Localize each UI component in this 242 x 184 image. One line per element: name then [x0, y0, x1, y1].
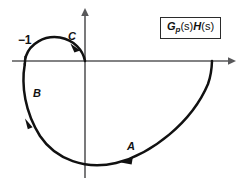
curve-label-a: A — [127, 141, 135, 152]
transfer-function-box: Gp(s)H(s) — [160, 17, 221, 39]
nyquist-plot-figure: −1 A B C Gp(s)H(s) — [0, 0, 242, 184]
real-axis — [12, 57, 236, 65]
transfer-function-base: G — [167, 20, 176, 32]
transfer-function-argument-2: (s) — [201, 20, 214, 32]
critical-point-label: −1 — [18, 34, 31, 46]
imaginary-axis — [81, 8, 89, 178]
imaginary-axis-arrowhead — [81, 8, 89, 16]
curve-label-c: C — [68, 31, 76, 42]
nyquist-main-contour — [23, 61, 212, 165]
transfer-function-argument-1: (s) — [180, 20, 193, 32]
real-axis-arrowhead — [228, 57, 236, 65]
curve-label-b: B — [33, 88, 41, 99]
